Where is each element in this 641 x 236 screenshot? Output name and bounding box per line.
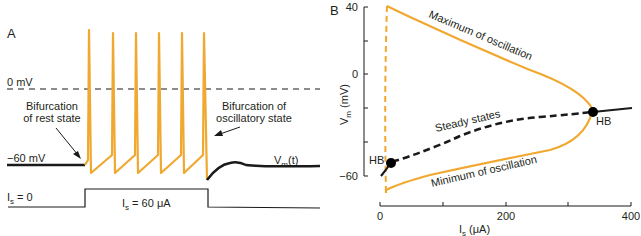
steady-stable-right xyxy=(593,108,632,112)
steady-states-label: Steady states xyxy=(434,107,502,134)
zero-mv-label: 0 mV xyxy=(7,76,33,88)
y-tick-40: 40 xyxy=(346,1,358,13)
annot-osc-line2: oscillatory state xyxy=(216,112,292,124)
max-oscillation-label: Maximum of oscillation xyxy=(427,8,534,63)
x-axis-ticks xyxy=(380,202,631,206)
y-tick-neg60: −60 xyxy=(339,170,358,182)
arrow-osc-head-icon xyxy=(214,130,223,136)
arrow-osc xyxy=(220,127,240,134)
rest-mv-label: −60 mV xyxy=(7,152,46,164)
max-oscillation-curve xyxy=(387,6,592,108)
y-axis-ticks xyxy=(364,7,368,176)
annot-rest-line2: of rest state xyxy=(23,112,80,124)
y-axis-label: Vm (mV) xyxy=(338,84,353,125)
arrow-rest xyxy=(56,128,78,155)
hb-point-left xyxy=(386,158,396,168)
is0-label: Is = 0 xyxy=(7,191,33,206)
x-axis-label: Is (μA) xyxy=(459,223,490,236)
hb-left-label: HB xyxy=(369,154,384,166)
panel-b-label: B xyxy=(330,3,339,18)
annot-rest-line1: Bifurcation xyxy=(26,100,78,112)
recovery-trace xyxy=(207,162,320,180)
annot-osc-line1: Bifurcation of xyxy=(222,100,287,112)
panel-a-label: A xyxy=(7,26,16,41)
arrow-rest-head-icon xyxy=(73,151,81,159)
figure: A 0 mV Bifurcation of rest state Bifurca… xyxy=(0,0,641,236)
x-tick-0: 0 xyxy=(377,210,383,222)
hb-right-label: HB xyxy=(596,115,611,127)
x-tick-400: 400 xyxy=(622,210,640,222)
y-tick-0: 0 xyxy=(352,68,358,80)
spike-train xyxy=(85,30,207,180)
x-tick-200: 200 xyxy=(497,210,515,222)
is60-label: Is = 60 μA xyxy=(122,197,171,212)
